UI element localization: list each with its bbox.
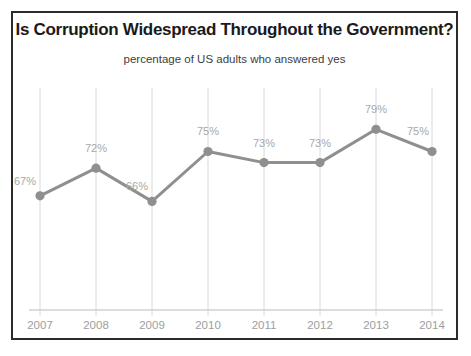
data-point-marker: [427, 147, 436, 156]
data-value-label: 67%: [14, 175, 36, 187]
data-point-marker: [91, 164, 100, 173]
data-value-label: 75%: [407, 125, 429, 137]
data-value-label: 66%: [126, 180, 148, 192]
data-point-marker: [147, 197, 156, 206]
gridlines-group: [40, 88, 432, 310]
x-axis-tick-label: 2009: [139, 319, 165, 331]
x-axis-tick-label: 2012: [307, 319, 333, 331]
data-value-label: 72%: [85, 142, 107, 154]
x-axis-tick-label: 2010: [195, 319, 221, 331]
x-axis-tick-label: 2007: [27, 319, 53, 331]
x-axis-tick-label: 2008: [83, 319, 109, 331]
data-point-marker: [203, 147, 212, 156]
chart-figure: Is Corruption Widespread Throughout the …: [0, 0, 471, 356]
data-value-label: 75%: [197, 125, 219, 137]
data-point-marker: [259, 158, 268, 167]
data-point-marker: [315, 158, 324, 167]
data-value-label: 73%: [309, 137, 331, 149]
data-point-marker: [35, 191, 44, 200]
data-value-label: 73%: [253, 137, 275, 149]
line-chart-plot: [0, 0, 471, 356]
x-axis-tick-label: 2013: [363, 319, 389, 331]
x-axis-tick-label: 2011: [252, 319, 277, 331]
data-point-marker: [371, 125, 380, 134]
x-axis-tick-label: 2014: [419, 319, 445, 331]
data-value-label: 79%: [365, 103, 387, 115]
x-axis-ticks-group: [40, 310, 432, 316]
